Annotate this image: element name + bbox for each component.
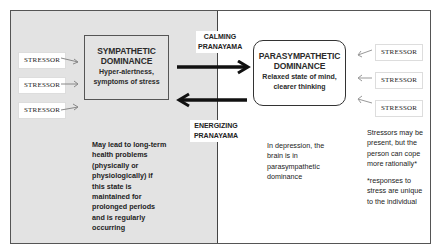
middle-note-line: brain is in xyxy=(267,151,357,161)
right-note-line: Stressors may be xyxy=(367,128,433,138)
sympathetic-title-2: DOMINANCE xyxy=(85,56,168,66)
calming-pranayama-label: CALMING PRANAYAMA xyxy=(196,31,244,53)
left-note-line: prolonged periods xyxy=(92,202,202,212)
parasympathetic-dominance-box: PARASYMPATHETIC DOMINANCE Relaxed state … xyxy=(253,40,346,106)
middle-note-line: parasympathetic xyxy=(267,162,357,172)
parasympathetic-sub-1: Relaxed state of mind, xyxy=(254,72,345,81)
left-note-line: occurring xyxy=(92,223,202,233)
parasympathetic-title-2: DOMINANCE xyxy=(254,61,345,71)
left-note-line: maintained for xyxy=(92,192,202,202)
left-note: May lead to long-term health problems (p… xyxy=(92,140,202,234)
left-note-line: and is regularly xyxy=(92,213,202,223)
sympathetic-sub-1: Hyper-alertness, xyxy=(85,67,168,76)
right-note-a: Stressors may be present, but the person… xyxy=(367,128,433,170)
right-note-line: stress are unique xyxy=(367,186,433,196)
right-note-b: *responses to stress are unique to the i… xyxy=(367,176,433,207)
stressor-arrows-right-icon xyxy=(355,46,375,106)
sympathetic-dominance-box: SYMPATHETIC DOMINANCE Hyper-alertness, s… xyxy=(84,35,169,100)
stressor-right-3: STRESSOR xyxy=(375,100,423,117)
stressor-right-1: STRESSOR xyxy=(375,44,423,61)
left-note-line: (physically or xyxy=(92,161,202,171)
calming-line2: PRANAYAMA xyxy=(198,42,242,52)
right-note-line: present, but the xyxy=(367,138,433,148)
energizing-pranayama-label: ENERGIZING PRANAYAMA xyxy=(190,120,242,142)
left-note-line: May lead to long-term xyxy=(92,140,202,150)
middle-note: In depression, the brain is in parasympa… xyxy=(267,141,357,183)
calming-line1: CALMING xyxy=(198,32,242,42)
middle-note-line: dominance xyxy=(267,172,357,182)
stressor-right-2: STRESSOR xyxy=(375,72,423,89)
energizing-arrow-left-icon xyxy=(172,92,252,112)
parasympathetic-sub-2: clearer thinking xyxy=(254,82,345,91)
left-note-line: physiologically) if xyxy=(92,171,202,181)
energizing-line1: ENERGIZING xyxy=(192,121,240,131)
left-note-line: health problems xyxy=(92,150,202,160)
right-note-line: person can cope xyxy=(367,149,433,159)
left-note-line: this state is xyxy=(92,182,202,192)
right-note-line: more rationally* xyxy=(367,159,433,169)
sympathetic-title-1: SYMPATHETIC xyxy=(85,46,168,56)
stressor-arrows-left-icon xyxy=(58,52,84,114)
middle-note-line: In depression, the xyxy=(267,141,357,151)
parasympathetic-title-1: PARASYMPATHETIC xyxy=(254,51,345,61)
sympathetic-sub-2: symptoms of stress xyxy=(85,77,168,86)
right-note-line: to the individual xyxy=(367,197,433,207)
right-note-line: *responses to xyxy=(367,176,433,186)
